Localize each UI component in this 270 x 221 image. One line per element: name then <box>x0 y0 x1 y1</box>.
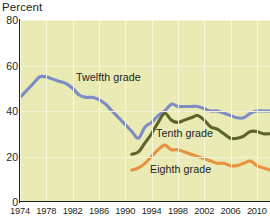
series-label-twelfth-grade: Twelfth grade <box>76 71 141 83</box>
y-tick-label: 20 <box>0 151 18 163</box>
y-axis-title: Percent <box>2 1 42 13</box>
x-tick-label: 1978 <box>36 206 56 216</box>
x-tick-label: 1982 <box>63 206 83 216</box>
x-tick-label: 1986 <box>89 206 109 216</box>
x-tick-label: 1990 <box>115 206 135 216</box>
x-tick-label: 1994 <box>142 206 162 216</box>
chart-figure: Percent 020406080 1974197819821986199019… <box>0 0 270 221</box>
horizontal-gridline <box>20 157 270 158</box>
series-label-eighth-grade: Eighth grade <box>150 163 211 175</box>
x-tick-label: 2010 <box>247 206 267 216</box>
x-axis-line <box>19 201 270 202</box>
horizontal-gridline <box>20 66 270 67</box>
y-tick-label: 80 <box>0 14 18 26</box>
x-tick-label: 1974 <box>10 206 30 216</box>
series-label-tenth-grade: Tenth grade <box>156 127 213 139</box>
y-tick-label: 60 <box>0 60 18 72</box>
x-tick-label: 1998 <box>168 206 188 216</box>
x-tick-label: 2002 <box>194 206 214 216</box>
y-axis-line <box>19 19 20 203</box>
y-tick-label: 40 <box>0 105 18 117</box>
line-twelfth-grade <box>20 76 270 138</box>
x-tick-label: 2006 <box>221 206 241 216</box>
plot-area <box>20 20 270 202</box>
horizontal-gridline <box>20 111 270 112</box>
horizontal-gridline <box>20 20 270 21</box>
